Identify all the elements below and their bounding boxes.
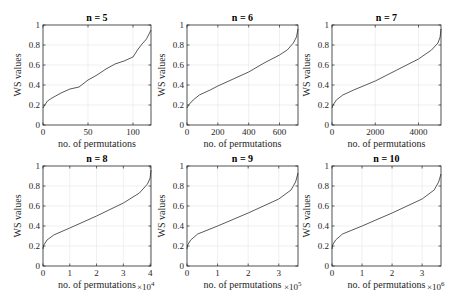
x-tick-label: 0 [330, 268, 335, 278]
x-tick-label: 2 [390, 268, 395, 278]
x-tick-label: 400 [242, 127, 256, 137]
y-axis-label: WS values [12, 194, 23, 237]
x-axis-label: no. of permutations [347, 138, 425, 149]
x-axis-label: no. of permutations [58, 279, 136, 290]
x-axis-label: no. of permutations [58, 138, 136, 149]
y-tick-label: 0.8 [318, 40, 330, 50]
y-tick-label: 0.2 [29, 241, 40, 251]
x-tick-label: 0 [41, 268, 46, 278]
y-tick-label: 0 [325, 120, 330, 130]
y-tick-label: 0.8 [29, 40, 41, 50]
y-axis-label: WS values [12, 53, 23, 96]
figure: 05010000.20.40.60.81n = 5no. of permutat… [0, 0, 460, 307]
subplot-1: 05010000.20.40.60.81n = 5no. of permutat… [12, 12, 151, 149]
x-tick-label: 4000 [410, 127, 429, 137]
y-tick-label: 0.8 [173, 181, 185, 191]
x-tick-label: 1 [360, 268, 365, 278]
x-tick-label: 0 [41, 127, 46, 137]
x-tick-label: 1 [68, 268, 73, 278]
x-tick-label: 0 [185, 268, 190, 278]
y-tick-label: 0 [180, 261, 185, 271]
y-tick-label: 0 [180, 120, 185, 130]
x-tick-label: 50 [84, 127, 94, 137]
y-axis-label: WS values [301, 53, 312, 96]
y-tick-label: 0.6 [173, 60, 185, 70]
y-tick-label: 0 [325, 261, 330, 271]
y-tick-label: 1 [325, 20, 330, 30]
y-tick-label: 0.6 [173, 201, 185, 211]
x-multiplier: ×106 [427, 280, 445, 292]
y-tick-label: 0.2 [29, 100, 40, 110]
x-tick-label: 4 [148, 268, 153, 278]
y-axis-label: WS values [156, 53, 167, 96]
y-tick-label: 0.6 [318, 201, 330, 211]
subplot-title: n = 5 [86, 12, 107, 23]
y-tick-label: 0.4 [318, 221, 330, 231]
subplot-5: 012300.20.40.60.81n = 9no. of permutatio… [156, 153, 302, 292]
y-tick-label: 0 [36, 261, 41, 271]
subplot-title: n = 10 [373, 153, 399, 164]
y-tick-label: 0.4 [29, 221, 41, 231]
y-tick-label: 0.8 [29, 181, 41, 191]
y-tick-label: 1 [36, 20, 41, 30]
y-tick-label: 0.6 [318, 60, 330, 70]
y-tick-label: 0.4 [173, 80, 185, 90]
y-tick-label: 0.4 [318, 80, 330, 90]
subplot-title: n = 6 [232, 12, 253, 23]
subplot-2: 020040060000.20.40.60.81n = 6no. of perm… [156, 12, 298, 149]
subplot-title: n = 9 [232, 153, 253, 164]
x-tick-label: 3 [420, 268, 425, 278]
y-tick-label: 1 [180, 161, 185, 171]
x-tick-label: 0 [330, 127, 335, 137]
y-axis-label: WS values [301, 194, 312, 237]
x-axis-label: no. of permutations [203, 138, 281, 149]
y-tick-label: 0.8 [173, 40, 185, 50]
x-tick-label: 1 [215, 268, 220, 278]
y-tick-label: 1 [325, 161, 330, 171]
subplot-title: n = 7 [376, 12, 397, 23]
y-axis-label: WS values [156, 194, 167, 237]
y-tick-label: 1 [180, 20, 185, 30]
x-tick-label: 2000 [366, 127, 385, 137]
y-tick-label: 0.2 [318, 100, 329, 110]
x-tick-label: 3 [121, 268, 126, 278]
y-tick-label: 0.2 [173, 100, 184, 110]
x-tick-label: 3 [277, 268, 282, 278]
x-tick-label: 2 [246, 268, 251, 278]
x-axis-label: no. of permutations [347, 279, 425, 290]
x-tick-label: 2 [94, 268, 99, 278]
y-tick-label: 0.2 [173, 241, 184, 251]
y-tick-label: 0.2 [318, 241, 329, 251]
y-tick-label: 0 [36, 120, 41, 130]
y-tick-label: 0.6 [29, 201, 41, 211]
x-axis-label: no. of permutations [203, 279, 281, 290]
y-tick-label: 0.6 [29, 60, 41, 70]
x-tick-label: 600 [273, 127, 287, 137]
x-tick-label: 200 [211, 127, 225, 137]
y-tick-label: 0.4 [173, 221, 185, 231]
x-multiplier: ×105 [284, 280, 302, 292]
x-tick-label: 0 [185, 127, 190, 137]
y-tick-label: 0.4 [29, 80, 41, 90]
y-tick-label: 1 [36, 161, 41, 171]
x-multiplier: ×104 [137, 280, 155, 292]
subplot-4: 0123400.20.40.60.81n = 8no. of permutati… [12, 153, 155, 292]
subplot-6: 012300.20.40.60.81n = 10no. of permutati… [301, 153, 445, 292]
y-tick-label: 0.8 [318, 181, 330, 191]
subplot-3: 02000400000.20.40.60.81n = 7no. of permu… [301, 12, 441, 149]
x-tick-label: 100 [126, 127, 140, 137]
subplot-title: n = 8 [86, 153, 107, 164]
